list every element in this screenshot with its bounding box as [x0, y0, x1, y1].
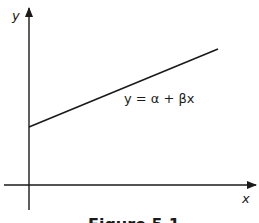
equation-label: y = α + βx — [124, 91, 195, 106]
y-axis-label: y — [11, 8, 20, 23]
x-axis-label: x — [241, 191, 250, 206]
linear-line — [29, 49, 218, 127]
linear-function-diagram: y x y = α + βx Figure 5.1 — [0, 0, 259, 223]
figure-caption: Figure 5.1 — [88, 215, 180, 223]
